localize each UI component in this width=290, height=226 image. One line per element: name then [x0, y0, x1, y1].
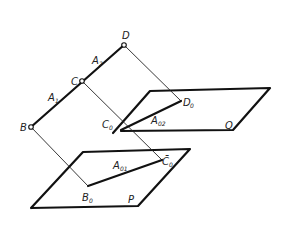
label-c: C	[71, 76, 78, 87]
projection-line-c	[82, 81, 162, 160]
segment-a01	[88, 160, 162, 186]
label-plane-p: P	[128, 194, 135, 205]
label-b0-sub: 0	[89, 197, 93, 204]
label-c0-sub: 0	[109, 124, 113, 131]
label-a02-sub: 02	[158, 120, 166, 127]
label-d0-sub: 0	[190, 102, 194, 109]
label-b: B	[20, 122, 27, 133]
label-a1: A	[47, 92, 55, 103]
label-a1-sub: 1	[55, 97, 59, 104]
point-d-marker	[122, 43, 127, 48]
point-b-marker	[29, 125, 34, 130]
label-a2-sub: 2	[99, 60, 103, 67]
point-c-marker	[80, 79, 85, 84]
label-a02: A	[150, 115, 158, 126]
label-c0bar-sub: 0	[169, 161, 173, 168]
label-b0: B	[82, 192, 89, 203]
label-d: D	[122, 30, 130, 41]
label-a01-sub: 01	[120, 165, 128, 172]
label-a2: A	[91, 55, 99, 66]
plane-q-outline	[113, 88, 270, 133]
projection-diagram: D C B A 2 A 1 D 0 C 0 A 02 Q C̄ 0 A 01 B…	[0, 0, 290, 226]
label-plane-q: Q	[225, 120, 233, 131]
label-c0: C	[102, 119, 109, 130]
label-a01: A	[112, 160, 120, 171]
projection-line-d	[124, 45, 181, 101]
